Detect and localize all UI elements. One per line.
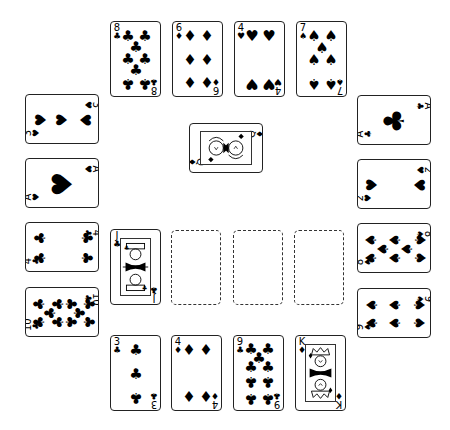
club-icon: ♣ [33, 231, 48, 246]
diamond-icon: ♦ [182, 343, 197, 358]
diamond-icon: ♦ [199, 343, 214, 358]
card-left-1[interactable]: 3♥ 3♥ ♥ ♥ ♥ [25, 94, 99, 144]
heart-icon: ♥ [364, 193, 373, 203]
king-face-art [305, 344, 336, 402]
king-portrait-icon [306, 345, 335, 401]
diamond-icon: ♦ [183, 29, 198, 44]
club-icon: ♣ [121, 76, 136, 91]
club-icon: ♣ [79, 231, 94, 246]
queen-portrait-icon [201, 132, 251, 164]
club-icon: ♣ [244, 391, 259, 406]
spade-icon: ♠ [388, 316, 403, 331]
club-icon: ♣ [81, 315, 96, 330]
spade-icon: ♠ [324, 53, 339, 68]
rank-label: A [424, 101, 431, 111]
heart-icon: ♥ [262, 29, 277, 44]
heart-icon: ♥ [365, 178, 380, 193]
diamond-icon: ♦ [199, 390, 214, 405]
card-bottom-3[interactable]: 9♣ 9♣ ♣ ♣ ♣ ♣ ♣ ♣ ♣ ♣ ♣ [233, 335, 284, 411]
heart-icon: ♥ [34, 113, 49, 128]
rank-label: A [92, 164, 99, 174]
spade-icon: ♠ [324, 76, 339, 91]
heart-icon: ♥ [49, 170, 77, 198]
club-icon: ♣ [79, 251, 94, 266]
card-bottom-2[interactable]: 4♦ 4♦ ♦ ♦ ♦ ♦ [171, 335, 222, 411]
diamond-icon: ♦ [200, 29, 215, 44]
card-center-queen[interactable]: Q♦ Q♦ [189, 123, 263, 173]
empty-slot-2[interactable] [233, 230, 283, 305]
club-icon: ♣ [33, 251, 48, 266]
club-icon: ♣ [244, 374, 259, 389]
spade-icon: ♠ [365, 298, 380, 313]
card-right-1[interactable]: A♣ A♣ ♣ [357, 95, 431, 145]
diamond-icon: ♦ [189, 157, 196, 167]
queen-face-art [200, 131, 252, 165]
card-right-3[interactable]: 8♠ 8♠ ♠ ♠ ♠ ♠ ♠ ♠ ♠ ♠ [357, 223, 431, 273]
club-icon: ♣ [261, 391, 276, 406]
diamond-icon: ♦ [200, 53, 215, 68]
card-top-4[interactable]: 7♠ 7♠ ♠ ♠ ♠ ♠ ♠ ♠ ♠ [296, 21, 347, 97]
svg-text:♣: ♣ [124, 244, 130, 251]
club-icon: ♣ [149, 391, 159, 400]
empty-slot-3[interactable] [294, 230, 344, 305]
card-right-2[interactable]: 2♥ 2♥ ♥ ♥ [357, 159, 431, 209]
heart-icon: ♥ [83, 164, 92, 174]
club-icon: ♣ [112, 346, 122, 355]
heart-icon: ♥ [83, 100, 92, 110]
svg-text:♣: ♣ [142, 284, 148, 291]
diamond-icon: ♦ [183, 76, 198, 91]
heart-icon: ♥ [32, 192, 41, 202]
card-top-3[interactable]: 4♥ 4♥ ♥ ♥ ♥ ♥ [234, 21, 285, 97]
card-bottom-1[interactable]: 3♣ 3♣ ♣ ♣ ♣ [110, 335, 161, 411]
diamond-icon: ♦ [182, 390, 197, 405]
rank-label: 2 [424, 165, 431, 175]
spade-icon: ♠ [411, 316, 426, 331]
spade-icon: ♠ [412, 251, 427, 266]
heart-icon: ♥ [245, 29, 260, 44]
diamond-icon: ♦ [183, 53, 198, 68]
spade-icon: ♠ [365, 316, 380, 331]
spade-icon: ♠ [411, 298, 426, 313]
diamond-icon: ♦ [200, 76, 215, 91]
heart-icon: ♥ [32, 128, 41, 138]
club-icon: ♣ [261, 374, 276, 389]
card-left-2[interactable]: A♥ A♥ ♥ [25, 158, 99, 208]
rank-label: 3 [92, 100, 99, 110]
club-icon: ♣ [138, 76, 153, 91]
card-top-2[interactable]: 6♦ 6♦ ♦ ♦ ♦ ♦ ♦ ♦ [172, 21, 223, 97]
heart-icon: ♥ [77, 113, 92, 128]
heart-icon: ♥ [411, 178, 426, 193]
heart-icon: ♥ [55, 113, 70, 128]
heart-icon: ♥ [262, 76, 277, 91]
heart-icon: ♥ [415, 165, 424, 175]
rank-label: 3 [149, 400, 159, 409]
club-icon: ♣ [129, 390, 144, 405]
club-icon: ♣ [415, 101, 424, 111]
card-left-4[interactable]: 10♣ 10♣ ♣ ♣ ♣ ♣ ♣ ♣ ♣ ♣ ♣ ♣ [25, 287, 99, 337]
card-bottom-4[interactable]: K♦ K♦ [295, 335, 346, 411]
card-left-3[interactable]: 4♣ 4♣ ♣ ♣ ♣ ♣ [25, 222, 99, 272]
club-icon: ♣ [129, 367, 144, 382]
spade-icon: ♠ [307, 76, 322, 91]
club-icon: ♣ [81, 297, 96, 312]
spade-icon: ♠ [412, 233, 427, 248]
jack-portrait-icon: ♣ ♣ [121, 239, 150, 295]
club-icon: ♣ [129, 343, 144, 358]
empty-slot-1[interactable] [171, 230, 221, 305]
heart-icon: ♥ [245, 76, 260, 91]
spade-icon: ♠ [388, 298, 403, 313]
club-icon: ♣ [381, 107, 409, 135]
jack-face-art: ♣ ♣ [120, 238, 151, 296]
card-middle-jack[interactable]: J♣ J♣ ♣ ♣ [110, 229, 161, 305]
card-top-1[interactable]: 8♣ 8♣ ♣ ♣ ♣ ♣ ♣ ♣ ♣ ♣ [110, 21, 161, 97]
diamond-icon: ♦ [256, 129, 263, 139]
spade-icon: ♠ [307, 53, 322, 68]
club-icon: ♣ [364, 129, 373, 139]
card-right-4[interactable]: 9♠ 9♠ ♠ ♠ ♠ ♠ ♠ ♠ [357, 288, 431, 338]
